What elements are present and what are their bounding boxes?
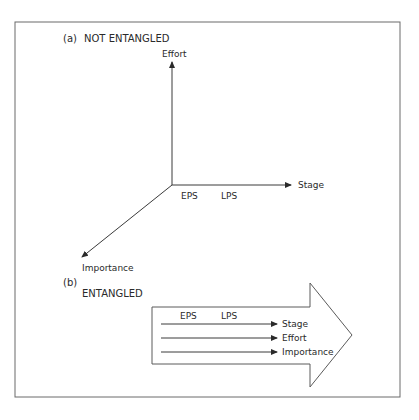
lps-mark-b: LPS [221, 311, 237, 321]
panel-b-tag: (b) [63, 277, 77, 288]
panel-b-title: ENTANGLED [82, 288, 143, 299]
stage-line-label: Stage [282, 319, 308, 329]
importance-line-label: Importance [282, 347, 334, 357]
importance-axis [82, 185, 172, 257]
effort-line-label: Effort [282, 333, 307, 343]
eps-mark-b: EPS [180, 311, 197, 321]
lps-mark: LPS [221, 191, 237, 201]
panel-a-title: NOT ENTANGLED [84, 33, 170, 44]
panel-a: (a) NOT ENTANGLED Effort Stage Importanc… [63, 33, 324, 273]
figure-frame [15, 22, 400, 397]
entangled-big-arrow [152, 283, 352, 387]
effort-axis-label: Effort [162, 49, 187, 59]
panel-a-tag: (a) [63, 33, 77, 44]
eps-mark: EPS [181, 191, 198, 201]
stage-axis-label: Stage [298, 180, 324, 190]
importance-axis-label: Importance [82, 263, 134, 273]
diagram-canvas: (a) NOT ENTANGLED Effort Stage Importanc… [0, 0, 419, 420]
panel-b: (b) ENTANGLED EPS LPS Stage Effort Impor… [63, 277, 352, 387]
